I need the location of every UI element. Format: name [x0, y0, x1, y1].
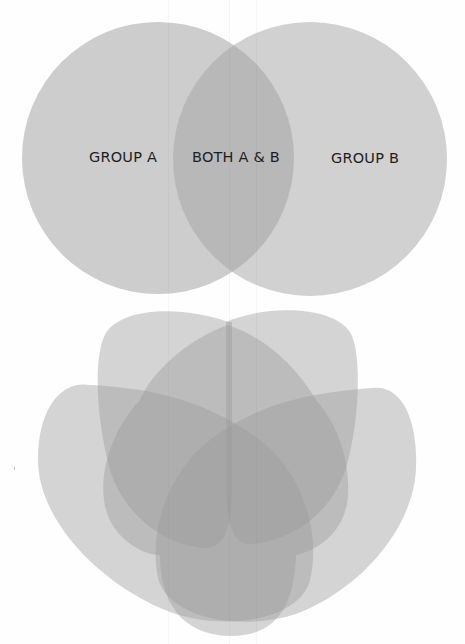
intersection-label: BOTH A & B — [192, 149, 280, 165]
five-set-venn-diagram — [0, 300, 465, 644]
group-a-label: GROUP A — [89, 149, 157, 165]
venn-lobes — [38, 310, 416, 636]
scan-speck — [14, 467, 15, 470]
two-set-venn-diagram: GROUP A BOTH A & B GROUP B — [0, 0, 465, 300]
page: GROUP A BOTH A & B GROUP B — [0, 0, 465, 644]
group-b-label: GROUP B — [331, 150, 399, 166]
